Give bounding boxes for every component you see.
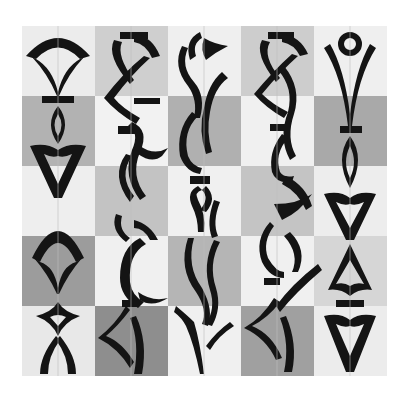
glyph-column-2 bbox=[98, 32, 168, 374]
glyph-layer bbox=[22, 26, 387, 376]
glyph-column-4 bbox=[244, 32, 322, 372]
bar-glyph bbox=[134, 98, 160, 104]
zigzag-glyph bbox=[104, 56, 150, 124]
arrowhead-glyph bbox=[244, 298, 282, 360]
spiral-hook-glyph bbox=[188, 32, 202, 60]
bar-glyph bbox=[190, 176, 210, 184]
bar-glyph bbox=[340, 126, 362, 133]
crescent-glyph bbox=[179, 112, 202, 174]
artwork bbox=[22, 26, 387, 376]
crescent-hook-glyph bbox=[114, 214, 130, 242]
branch-spike-glyph bbox=[174, 306, 204, 374]
crossed-legs-glyph bbox=[40, 336, 60, 374]
arrowhead-glyph bbox=[98, 306, 134, 368]
s-wave-glyph bbox=[184, 238, 210, 326]
bar-glyph bbox=[270, 124, 290, 131]
